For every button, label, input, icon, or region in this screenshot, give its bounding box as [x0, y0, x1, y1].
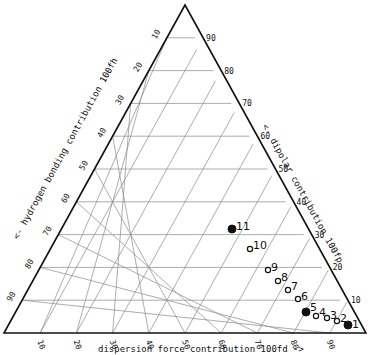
grid-line-right-parallel: [58, 235, 257, 333]
right-axis-ticks: 908070605040302010: [206, 34, 361, 305]
left-tick-label: 40: [96, 126, 109, 139]
right-tick-label: 20: [333, 263, 343, 272]
point-label: 9: [271, 261, 278, 274]
left-tick-label: 50: [77, 159, 90, 172]
point-label: 7: [291, 280, 298, 293]
point-label: 2: [340, 312, 347, 325]
open-circle-marker-icon: [285, 287, 290, 292]
left-axis-ticks: 102030405060708090: [5, 28, 163, 303]
data-point-9: 9: [265, 261, 278, 274]
data-point-11: 11: [228, 220, 250, 233]
open-circle-marker-icon: [265, 267, 270, 272]
ternary-diagram: 102030405060708090 102030405060708090 90…: [0, 0, 371, 355]
left-tick-label: 20: [132, 61, 145, 74]
open-circle-marker-icon: [313, 313, 318, 318]
left-tick-label: 60: [59, 192, 72, 205]
open-circle-marker-icon: [295, 296, 300, 301]
data-points: 1234567891011: [228, 220, 359, 331]
right-tick-label: 70: [242, 99, 252, 108]
left-tick-label: 70: [41, 225, 54, 238]
open-circle-marker-icon: [247, 246, 252, 251]
point-label: 8: [281, 271, 288, 284]
grid-line-left-parallel: [40, 50, 196, 333]
point-label: 4: [319, 306, 326, 319]
grid-line-right-parallel: [22, 300, 330, 333]
point-label: 1: [352, 318, 359, 331]
bottom-tick-label: 20: [72, 339, 84, 351]
grid-line-left-parallel: [76, 81, 215, 333]
point-label: 11: [236, 220, 250, 233]
right-tick-label: 10: [351, 296, 361, 305]
bottom-tick-label: 90: [325, 339, 337, 351]
data-point-3: 3: [324, 309, 337, 322]
grid-line-left-parallel: [185, 176, 272, 333]
filled-circle-marker-icon: [228, 225, 236, 233]
left-axis-label: <- hydrogen bonding contribution 100fh: [11, 56, 120, 241]
grid-line-right-parallel: [95, 169, 186, 333]
right-tick-label: 80: [224, 67, 234, 76]
data-point-5: 5: [302, 301, 317, 316]
left-tick-label: 90: [5, 290, 18, 303]
point-label: 6: [301, 290, 308, 303]
point-label: 3: [330, 309, 337, 322]
point-label: 5: [310, 301, 317, 314]
bottom-axis-label: dispersion force contribution 100fd ->: [98, 344, 304, 354]
data-point-10: 10: [247, 239, 267, 252]
bottom-tick-label: 10: [35, 339, 47, 351]
filled-circle-marker-icon: [302, 308, 310, 316]
left-tick-label: 30: [114, 93, 127, 106]
point-label: 10: [253, 239, 267, 252]
right-axis-label: <- dipolar contribution 100fp: [260, 122, 345, 264]
left-tick-label: 10: [150, 28, 163, 41]
open-circle-marker-icon: [275, 278, 280, 283]
right-tick-label: 90: [206, 34, 216, 43]
left-tick-label: 80: [23, 257, 36, 270]
